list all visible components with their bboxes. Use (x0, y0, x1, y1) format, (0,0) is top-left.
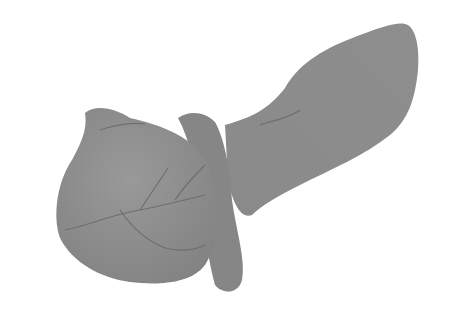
organ-body (225, 24, 418, 216)
illustration-canvas (0, 0, 461, 324)
organ-illustration (0, 0, 461, 324)
